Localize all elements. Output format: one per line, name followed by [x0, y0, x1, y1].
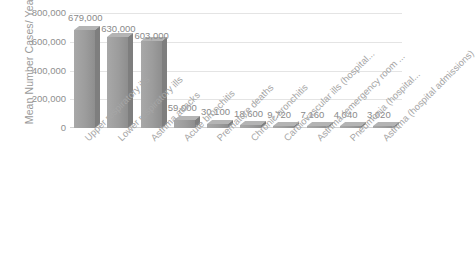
y-tick-label: 800,000: [18, 8, 66, 18]
data-label: 603,000: [135, 31, 169, 41]
bar[interactable]: [74, 25, 95, 128]
gridline: [70, 13, 402, 14]
y-axis-tick-labels: 800,000600,000400,000200,0000: [14, 0, 66, 254]
bar-side-face: [162, 37, 167, 128]
bar-front-face: [74, 30, 95, 128]
y-tick-label: 600,000: [18, 37, 66, 47]
data-label: 630,000: [101, 24, 135, 34]
y-tick-label: 200,000: [18, 94, 66, 104]
bar-side-face: [95, 26, 100, 128]
bar-side-face: [128, 34, 133, 128]
y-tick-label: 0: [18, 123, 66, 133]
y-tick-label: 400,000: [18, 66, 66, 76]
data-label: 679,000: [68, 13, 102, 23]
